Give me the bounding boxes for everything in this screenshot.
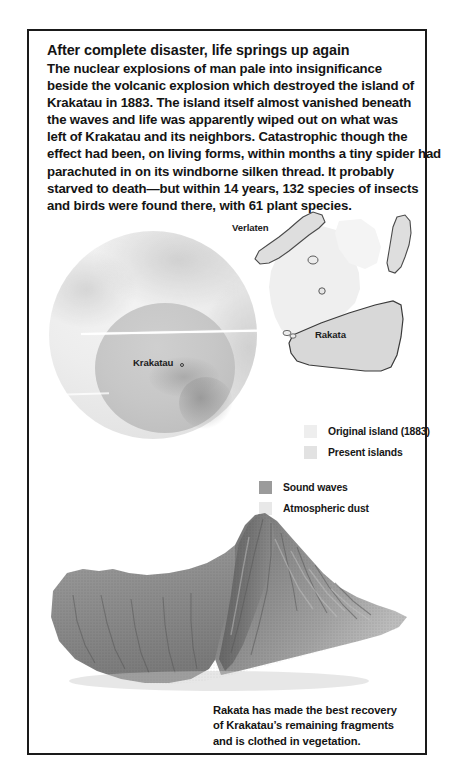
page-title: After complete disaster, life springs up… [47, 42, 415, 59]
legend-label-sound-waves: Sound waves [283, 482, 348, 493]
legend-item-sound-waves: Sound waves [259, 477, 369, 498]
body-line: parachuted in on its windborne silken th… [47, 163, 415, 180]
legend-swatch-present-islands [304, 446, 317, 459]
islet-north-icon [308, 256, 318, 264]
caption-line: Rakata has made the best recovery [213, 703, 423, 718]
rakata-island-photograph [39, 499, 425, 695]
article-body: The nuclear explosions of man pale into … [47, 60, 415, 214]
caption-line: and is clothed in vegetation. [213, 734, 423, 749]
body-line: starved to death—but within 14 years, 13… [47, 180, 415, 197]
body-line: beside the volcanic explosion which dest… [47, 77, 415, 94]
rakata-photo-svg [39, 499, 425, 695]
body-line: The nuclear explosions of man pale into … [47, 60, 415, 77]
island-base-shadow [69, 671, 369, 691]
islet-center-icon [319, 288, 325, 294]
legend-item-present-islands: Present islands [304, 442, 430, 463]
body-line: effect had been, on living forms, within… [47, 145, 415, 162]
map-label-rakata: Rakata [315, 329, 346, 340]
legend-item-original-island: Original island (1883) [304, 421, 430, 442]
caption-line: of Krakatau’s remaining fragments [213, 718, 423, 733]
legend-islands: Original island (1883) Present islands [304, 421, 430, 463]
sertung-island-shape [387, 215, 411, 273]
body-line: Krakatau in 1883. The island itself almo… [47, 94, 415, 111]
legend-label-original-island: Original island (1883) [328, 426, 430, 437]
body-line: the waves and life was apparently wiped … [47, 111, 415, 128]
legend-label-present-islands: Present islands [328, 447, 403, 458]
content-frame: After complete disaster, life springs up… [27, 29, 427, 755]
legend-swatch-sound-waves [259, 481, 272, 494]
island-halftone-texture [52, 513, 407, 684]
island-map: Verlaten Rakata [189, 207, 425, 389]
article-text-block: After complete disaster, life springs up… [47, 42, 415, 214]
krakatau-location-marker-icon [180, 363, 184, 367]
body-line: left of Krakatau and its neighbors. Cata… [47, 128, 415, 145]
map-label-verlaten: Verlaten [232, 222, 269, 233]
islet-southwest-b-icon [290, 334, 296, 338]
island-map-svg [189, 207, 425, 389]
legend-swatch-original-island [304, 425, 317, 438]
photo-caption: Rakata has made the best recovery of Kra… [213, 703, 423, 749]
infographic-page: After complete disaster, life springs up… [0, 0, 457, 782]
globe-label-krakatau: Krakatau [133, 357, 173, 368]
